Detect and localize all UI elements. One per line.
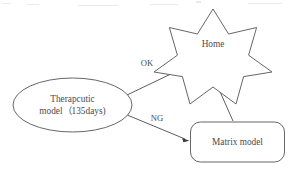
- node-matrix-model[interactable]: Matrix model: [191, 122, 285, 162]
- node-home-label: Home: [202, 39, 225, 49]
- diagram-canvas: OK NG Therapcutic model（135days) Home Ma…: [0, 0, 290, 170]
- node-home-star[interactable]: [154, 9, 272, 104]
- node-therapeutic-model-label-line2: model（135days): [39, 106, 105, 117]
- edge-ng-arrowhead: [182, 138, 189, 142]
- node-home[interactable]: Home: [154, 9, 272, 104]
- edge-ok-label: OK: [141, 58, 154, 68]
- edge-ng: NG: [126, 113, 189, 142]
- diagram-svg: OK NG Therapcutic model（135days) Home Ma…: [0, 0, 290, 170]
- node-therapeutic-model-label-line1: Therapcutic: [50, 94, 94, 104]
- node-matrix-model-label: Matrix model: [212, 137, 263, 147]
- edge-ng-label: NG: [151, 113, 163, 123]
- node-therapeutic-model[interactable]: Therapcutic model（135days): [13, 78, 132, 132]
